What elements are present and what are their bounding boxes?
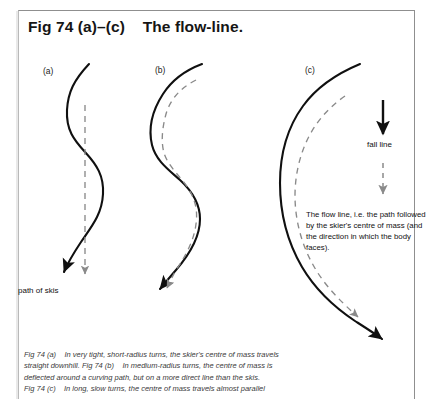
caption-line: Fig 74 (a) In very tight, short-radius t… [24, 349, 324, 360]
panel-b-ski-path [150, 64, 202, 289]
caption-line: Fig 74 (c) In long, slow turns, the cent… [24, 383, 324, 394]
panel-label-a: (a) [43, 66, 53, 76]
flow-line-note: The flow line, i.e. the path followed by… [306, 209, 428, 253]
caption-line: deflected around a curving path, but on … [24, 372, 324, 383]
panel-label-b: (b) [155, 65, 165, 75]
figure-page: Fig 74 (a)–(c) The flow-line. [0, 0, 434, 399]
fall-line-label: fall line [367, 140, 392, 149]
panel-b-flow-line [162, 80, 196, 288]
figure-caption: Fig 74 (a) In very tight, short-radius t… [24, 349, 324, 394]
figure-artwork [0, 0, 434, 399]
caption-line: straight downhill. Fig 74 (b) In medium-… [24, 360, 324, 371]
path-of-skis-label: path of skis [18, 286, 58, 295]
panel-c-flow-line [295, 96, 358, 317]
panel-a-ski-path [64, 64, 103, 272]
panel-label-c: (c) [305, 65, 315, 75]
